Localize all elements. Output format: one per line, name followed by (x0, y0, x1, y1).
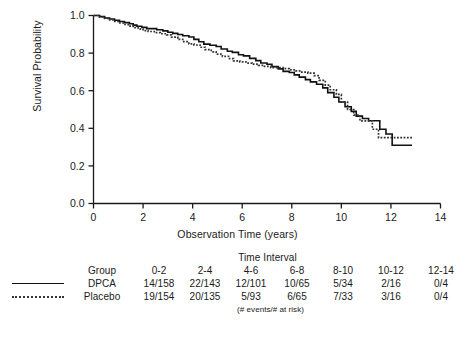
survival-chart-figure: 0.00.20.40.60.81.002468101214 Survival P… (0, 0, 475, 340)
placebo-value-0: 19/154 (136, 290, 182, 303)
dpca-value-3: 10/65 (274, 277, 320, 290)
group-name-placebo: Placebo (68, 290, 136, 303)
legend-key-placebo (8, 290, 68, 303)
table-row: Placebo 19/154 20/135 5/93 6/65 7/33 3/1… (8, 290, 466, 303)
risk-table: Time Interval Group 0-2 2-4 4-6 6-8 8-10… (0, 252, 475, 314)
interval-header-2: 4-6 (228, 264, 274, 277)
dotted-line-icon (12, 294, 64, 300)
solid-line-icon (12, 281, 64, 287)
group-name-dpca: DPCA (68, 277, 136, 290)
risk-table-footnote: (# events/# at risk) (66, 305, 475, 314)
x-tick-label-4: 8 (289, 211, 295, 223)
interval-header-3: 6-8 (274, 264, 320, 277)
y-tick-label-4: 0.8 (70, 47, 85, 59)
placebo-value-4: 7/33 (320, 290, 366, 303)
placebo-value-5: 3/16 (366, 290, 416, 303)
legend-key-header (8, 264, 68, 277)
dpca-value-5: 2/16 (366, 277, 416, 290)
x-axis-label: Observation Time (years) (0, 228, 475, 240)
plot-area: 0.00.20.40.60.81.002468101214 (0, 0, 475, 252)
interval-header-5: 10-12 (366, 264, 416, 277)
risk-table-header-row: Group 0-2 2-4 4-6 6-8 8-10 10-12 12-14 (8, 264, 466, 277)
x-tick-label-7: 14 (435, 211, 447, 223)
risk-table-title: Time Interval (60, 252, 475, 263)
risk-table-grid: Group 0-2 2-4 4-6 6-8 8-10 10-12 12-14 D… (8, 264, 466, 303)
x-tick-label-1: 2 (140, 211, 146, 223)
placebo-value-6: 0/4 (416, 290, 466, 303)
placebo-value-3: 6/65 (274, 290, 320, 303)
x-tick-label-3: 6 (239, 211, 245, 223)
x-tick-label-0: 0 (91, 211, 97, 223)
interval-header-1: 2-4 (182, 264, 228, 277)
placebo-value-1: 20/135 (182, 290, 228, 303)
y-tick-label-2: 0.4 (70, 122, 85, 134)
series-line-placebo (94, 16, 413, 138)
table-row: DPCA 14/158 22/143 12/101 10/65 5/34 2/1… (8, 277, 466, 290)
y-tick-label-1: 0.2 (70, 160, 85, 172)
y-axis-label: Survival Probability (31, 0, 43, 141)
x-tick-label-5: 10 (336, 211, 348, 223)
dpca-value-4: 5/34 (320, 277, 366, 290)
group-header: Group (68, 264, 136, 277)
y-tick-label-0: 0.0 (70, 197, 85, 209)
dpca-value-2: 12/101 (228, 277, 274, 290)
series-line-dpca (94, 16, 413, 146)
dpca-value-1: 22/143 (182, 277, 228, 290)
interval-header-6: 12-14 (416, 264, 466, 277)
dpca-value-6: 0/4 (416, 277, 466, 290)
x-tick-label-2: 4 (190, 211, 196, 223)
placebo-value-2: 5/93 (228, 290, 274, 303)
y-tick-label-3: 0.6 (70, 85, 85, 97)
legend-key-dpca (8, 277, 68, 290)
x-tick-label-6: 12 (385, 211, 397, 223)
interval-header-0: 0-2 (136, 264, 182, 277)
y-tick-label-5: 1.0 (70, 9, 85, 21)
dpca-value-0: 14/158 (136, 277, 182, 290)
interval-header-4: 8-10 (320, 264, 366, 277)
